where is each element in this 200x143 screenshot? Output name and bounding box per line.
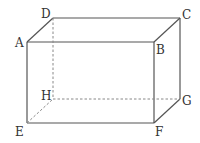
edge-da xyxy=(27,18,53,42)
visible-edges xyxy=(27,18,180,123)
vertex-label-g: G xyxy=(182,94,192,108)
edge-fg xyxy=(154,99,180,123)
vertex-label-e: E xyxy=(15,125,24,139)
edge-bc xyxy=(154,18,180,42)
vertex-label-c: C xyxy=(182,8,191,22)
vertex-label-a: A xyxy=(14,36,24,50)
cuboid-diagram: A B C D E F G H xyxy=(0,0,200,143)
vertex-label-f: F xyxy=(155,125,163,139)
hidden-edges xyxy=(27,18,180,123)
vertex-label-h: H xyxy=(41,89,51,103)
vertex-label-b: B xyxy=(156,43,165,57)
vertex-label-d: D xyxy=(41,7,51,21)
